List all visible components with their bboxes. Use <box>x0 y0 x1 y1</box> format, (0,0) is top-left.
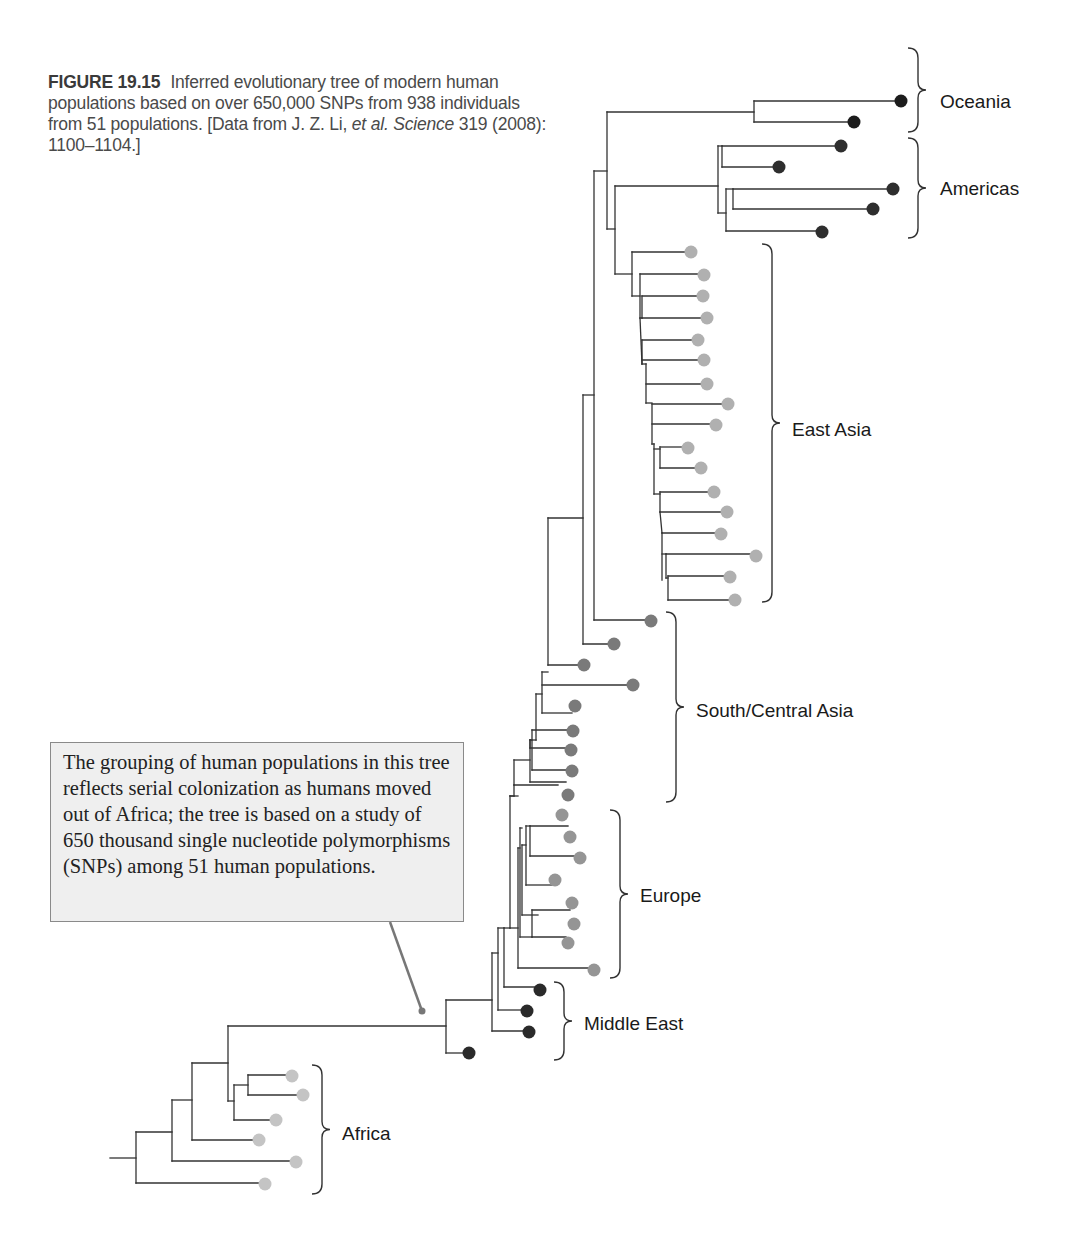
population-node <box>568 918 581 931</box>
region-label: Europe <box>640 885 701 906</box>
population-node <box>521 1005 534 1018</box>
population-node <box>701 378 714 391</box>
region-label: Africa <box>342 1123 391 1144</box>
population-node <box>297 1089 310 1102</box>
callout-box: The grouping of human populations in thi… <box>50 742 464 922</box>
population-node <box>566 897 579 910</box>
population-node <box>710 419 723 432</box>
population-node <box>695 462 708 475</box>
region-brace <box>908 138 926 238</box>
region-label: Americas <box>940 178 1019 199</box>
tree-branches <box>110 101 901 1183</box>
region-brace <box>554 982 572 1060</box>
region-brace <box>312 1065 330 1194</box>
population-node <box>701 312 714 325</box>
population-node <box>578 659 591 672</box>
region-label: Oceania <box>940 91 1011 112</box>
region-label: East Asia <box>792 419 872 440</box>
population-node <box>566 765 579 778</box>
population-node <box>708 486 721 499</box>
population-node <box>253 1134 266 1147</box>
population-node <box>588 964 601 977</box>
population-node <box>715 528 728 541</box>
population-node <box>721 506 734 519</box>
population-node <box>724 571 737 584</box>
population-node <box>729 594 742 607</box>
population-node <box>569 700 582 713</box>
population-node <box>682 442 695 455</box>
phylogenetic-tree: OceaniaAmericasEast AsiaSouth/Central As… <box>0 0 1088 1246</box>
population-node <box>565 744 578 757</box>
region-brace <box>908 48 926 132</box>
population-node <box>698 269 711 282</box>
population-node <box>259 1178 272 1191</box>
population-node <box>645 615 658 628</box>
tree-branch <box>660 512 662 533</box>
population-node <box>270 1114 283 1127</box>
region-brace <box>762 244 780 602</box>
population-node <box>887 183 900 196</box>
population-node <box>867 203 880 216</box>
region-brace <box>610 810 628 978</box>
population-node <box>835 140 848 153</box>
population-node <box>574 852 587 865</box>
population-node <box>562 937 575 950</box>
region-label: South/Central Asia <box>696 700 854 721</box>
population-node <box>567 725 580 738</box>
population-node <box>697 290 710 303</box>
population-node <box>816 226 829 239</box>
callout-pointer <box>390 922 426 1015</box>
callout-text: The grouping of human populations in thi… <box>63 751 450 877</box>
population-node <box>692 334 705 347</box>
population-node <box>556 809 569 822</box>
population-node <box>523 1026 536 1039</box>
population-node <box>722 398 735 411</box>
population-node <box>685 246 698 259</box>
population-node <box>564 831 577 844</box>
population-node <box>290 1156 303 1169</box>
region-label: Middle East <box>584 1013 684 1034</box>
population-node <box>848 116 861 129</box>
population-node <box>549 874 562 887</box>
population-node <box>608 638 621 651</box>
population-node <box>750 550 763 563</box>
population-node <box>286 1070 299 1083</box>
population-node <box>562 789 575 802</box>
region-brace <box>666 612 684 802</box>
population-node <box>773 161 786 174</box>
population-node <box>627 679 640 692</box>
callout-pointer-dot <box>419 1008 426 1015</box>
population-node <box>463 1047 476 1060</box>
population-node <box>534 984 547 997</box>
region-braces: OceaniaAmericasEast AsiaSouth/Central As… <box>312 48 1019 1194</box>
population-node <box>698 354 711 367</box>
population-node <box>895 95 908 108</box>
callout-pointer-line <box>390 922 422 1011</box>
